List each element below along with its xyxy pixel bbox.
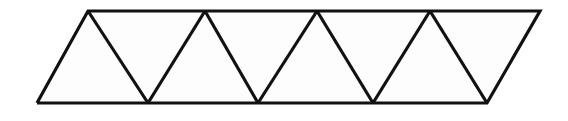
triangle-strip-figure [0,0,568,121]
figure-canvas [0,0,568,121]
